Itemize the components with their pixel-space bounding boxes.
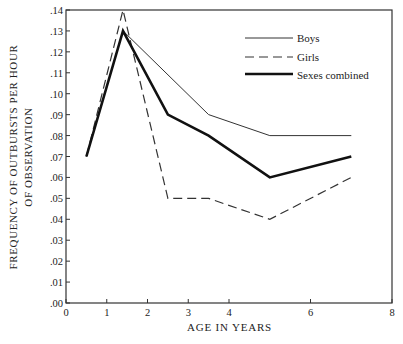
y-axis-title: FREQUENCY OF OUTBURSTS PER HOUR OF OBSER…	[0, 0, 60, 344]
legend: Boys Girls Sexes combined	[245, 32, 369, 81]
series-boys	[86, 31, 351, 157]
x-tick-label: 2	[145, 307, 150, 318]
x-axis-title: AGE IN YEARS	[0, 321, 403, 333]
x-tick-label: 4	[226, 307, 232, 318]
legend-boys-label: Boys	[297, 32, 320, 44]
y-axis-title-line1: FREQUENCY OF OUTBURSTS PER HOUR	[7, 27, 19, 287]
axes: .00.01.02.03.04.05.06.07.08.09.10.11.12.…	[50, 5, 395, 318]
legend-girls-label: Girls	[297, 51, 319, 63]
legend-combined-label: Sexes combined	[297, 69, 369, 81]
plot-frame	[66, 10, 392, 303]
x-tick-label: 0	[63, 307, 68, 318]
line-chart: .00.01.02.03.04.05.06.07.08.09.10.11.12.…	[0, 0, 403, 344]
x-tick-label: 8	[389, 307, 394, 318]
y-axis-title-line2: OF OBSERVATION	[22, 27, 34, 287]
x-tick-label: 1	[104, 307, 109, 318]
x-tick-label: 3	[186, 307, 191, 318]
x-tick-label: 6	[308, 307, 313, 318]
